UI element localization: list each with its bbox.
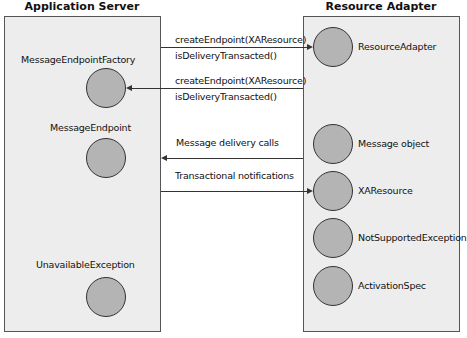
message-endpoint-factory-node <box>86 68 126 108</box>
activation-spec-node <box>313 266 353 306</box>
message-object-label: Message object <box>358 138 429 149</box>
message-endpoint-factory-label: MessageEndpointFactory <box>21 54 135 65</box>
message-endpoint-label: MessageEndpoint <box>50 122 131 133</box>
connection-3-label: Message delivery calls <box>176 137 279 148</box>
xaresource-label: XAResource <box>358 185 413 196</box>
connection-4-arrow-line <box>161 191 307 192</box>
connection-1-label-1: createEndpoint(XAResource) <box>175 34 306 45</box>
not-supported-exception-node <box>313 218 353 258</box>
resource-adapter-label: ResourceAdapter <box>358 41 436 52</box>
application-server-title: Application Server <box>4 0 160 13</box>
message-object-node <box>313 124 353 164</box>
unavailable-exception-node <box>86 277 126 317</box>
connection-2-label-1: createEndpoint(XAResource) <box>175 75 306 86</box>
resource-adapter-title: Resource Adapter <box>303 0 459 13</box>
arrow-left-icon <box>161 155 167 161</box>
not-supported-exception-label: NotSupportedException <box>358 232 467 243</box>
message-endpoint-node <box>86 138 126 178</box>
connection-2-arrow-line <box>132 88 303 89</box>
resource-adapter-node <box>313 27 353 67</box>
arrow-right-icon <box>307 44 313 50</box>
arrow-right-icon <box>307 188 313 194</box>
connection-3-arrow-line <box>166 158 303 159</box>
activation-spec-label: ActivationSpec <box>358 280 426 291</box>
connection-4-label: Transactional notifications <box>175 170 294 181</box>
unavailable-exception-label: UnavailableException <box>36 259 135 270</box>
connection-1-arrow-line <box>161 47 307 48</box>
connection-2-label-2: isDeliveryTransacted() <box>175 91 277 102</box>
xaresource-node <box>313 171 353 211</box>
arrow-left-icon <box>126 85 132 91</box>
connection-1-label-2: isDeliveryTransacted() <box>175 50 277 61</box>
